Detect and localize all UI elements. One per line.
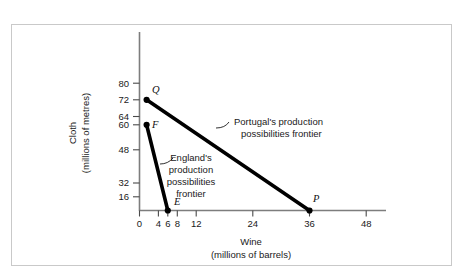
y-tick-label-16: 16 bbox=[118, 191, 129, 202]
x-tick-label-12: 12 bbox=[191, 218, 202, 229]
x-axis-title-line-2: (millions of barrels) bbox=[211, 249, 291, 260]
annotation-england: England's production possibilities front… bbox=[167, 152, 216, 199]
point-marker-Q bbox=[144, 97, 150, 103]
point-label-F: F bbox=[151, 119, 159, 130]
x-tick-label-48: 48 bbox=[361, 218, 372, 229]
annotation-portugal-line-2: possibilities frontier bbox=[241, 128, 322, 139]
figure-canvas: 80 72 64 60 48 32 16 0 4 6 8 12 24 bbox=[0, 0, 462, 280]
point-label-Q: Q bbox=[152, 84, 160, 95]
x-tick-label-6: 6 bbox=[165, 218, 170, 229]
x-tick-label-0: 0 bbox=[137, 218, 142, 229]
y-tick-label-32: 32 bbox=[118, 177, 129, 188]
y-axis-title-line-2: (millions of metres) bbox=[80, 93, 91, 173]
x-axis-ticks bbox=[140, 211, 367, 217]
y-tick-label-60: 60 bbox=[118, 119, 129, 130]
x-axis-title-line-1: Wine bbox=[240, 236, 262, 247]
y-tick-label-72: 72 bbox=[118, 94, 129, 105]
portugal-leader-line bbox=[216, 122, 229, 128]
annotation-england-line-2: production bbox=[169, 164, 213, 175]
y-axis-title-line-1: Cloth bbox=[67, 122, 78, 144]
annotation-portugal-line-1: Portugal's production bbox=[234, 116, 323, 127]
annotation-england-line-3: possibilities bbox=[167, 176, 216, 187]
point-marker-P bbox=[306, 207, 312, 213]
x-tick-label-4: 4 bbox=[156, 218, 161, 229]
annotation-portugal: Portugal's production possibilities fron… bbox=[234, 116, 323, 139]
annotation-england-line-4: frontier bbox=[176, 188, 206, 199]
ppf-chart: 80 72 64 60 48 32 16 0 4 6 8 12 24 bbox=[0, 0, 462, 280]
england-ppf-line bbox=[147, 125, 168, 211]
annotation-england-line-1: England's bbox=[170, 152, 212, 163]
point-marker-E bbox=[165, 207, 171, 213]
x-axis-title: Wine (millions of barrels) bbox=[211, 236, 291, 260]
x-axis-tick-labels: 0 4 6 8 12 24 36 48 bbox=[137, 218, 372, 229]
x-tick-label-24: 24 bbox=[248, 218, 259, 229]
y-axis-tick-labels: 80 72 64 60 48 32 16 bbox=[118, 78, 129, 203]
y-tick-label-48: 48 bbox=[118, 144, 129, 155]
point-marker-F bbox=[144, 122, 150, 128]
x-tick-label-36: 36 bbox=[304, 218, 315, 229]
y-tick-label-80: 80 bbox=[118, 78, 129, 89]
x-tick-label-8: 8 bbox=[175, 218, 180, 229]
y-axis-title: Cloth (millions of metres) bbox=[67, 93, 91, 173]
y-axis-ticks bbox=[133, 83, 140, 197]
point-label-P: P bbox=[312, 193, 320, 204]
